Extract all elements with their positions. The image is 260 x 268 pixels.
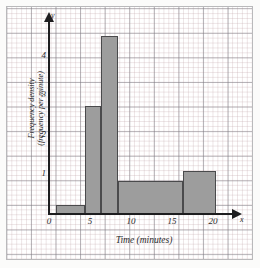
plot-area: x y 0 5 10 15 20 1 2 3 4 Time (minutes) … xyxy=(7,7,252,259)
x-tick-label: 10 xyxy=(123,216,139,226)
graph-paper: x y 0 5 10 15 20 1 2 3 4 Time (minutes) … xyxy=(6,6,253,260)
x-tick-label: 5 xyxy=(82,216,98,226)
x-tick-label: 15 xyxy=(164,216,180,226)
x-axis-variable-label: x xyxy=(240,215,244,224)
x-tick-label: 20 xyxy=(205,216,221,226)
x-axis-title: Time (minutes) xyxy=(69,235,219,245)
histogram-bar xyxy=(85,106,101,214)
histogram-bar xyxy=(118,181,184,214)
y-axis-variable-label: y xyxy=(51,11,55,20)
y-axis-title-line1: Frequency density xyxy=(27,33,36,183)
histogram-figure: x y 0 5 10 15 20 1 2 3 4 Time (minutes) … xyxy=(0,0,260,268)
y-axis-title: Frequency density (frequency per minute) xyxy=(27,33,46,183)
y-axis-line xyxy=(48,21,50,214)
y-axis-title-line2: (frequency per minute) xyxy=(36,33,45,183)
x-axis-line xyxy=(48,213,234,215)
x-tick-label: 0 xyxy=(41,216,57,226)
histogram-bar xyxy=(101,36,117,214)
histogram-bar xyxy=(183,171,216,214)
